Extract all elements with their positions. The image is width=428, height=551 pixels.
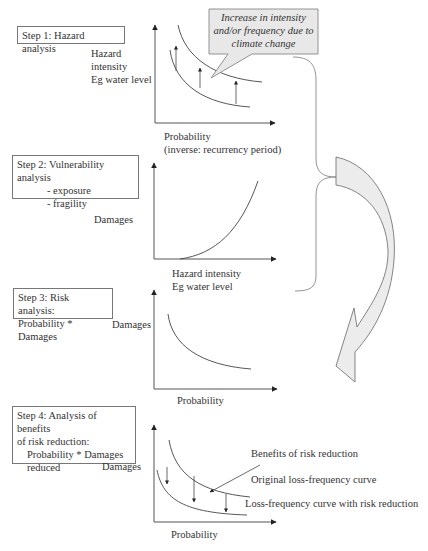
step-2-title: Step 2: Vulnerability analysis [17, 158, 134, 184]
callout-line: and/or frequency due to [209, 24, 318, 37]
curved-flow-arrow-icon [336, 157, 394, 382]
callout-line: Increase in intensity [209, 11, 318, 24]
benefits-x-axis-label: Probability [171, 528, 218, 541]
risk-y-axis-label: Damages [112, 318, 151, 331]
label-line: intensity [91, 60, 152, 73]
step-1-box: Step 1: Hazard analysis [17, 26, 125, 44]
step-4-title-cont: of risk reduction: [17, 435, 131, 448]
risk-x-axis-label: Probability [177, 394, 224, 407]
benefits-y-axis-label: Damages [102, 460, 141, 473]
step-2-item: - fragility [17, 197, 134, 210]
hazard-y-axis-label: Hazard intensity Eg water level [91, 47, 152, 86]
step-3-title: Step 3: Risk analysis: [18, 291, 108, 317]
step-3-box: Step 3: Risk analysis: Probability * Dam… [13, 288, 113, 319]
step-4-title: Step 4: Analysis of benefits [17, 409, 131, 435]
vulnerability-y-axis-label: Damages [94, 213, 133, 226]
label-line: Eg water level [172, 280, 241, 293]
step-3-formula: Probability * Damages [18, 317, 108, 343]
label-line: Hazard [91, 47, 152, 60]
benefits-of-risk-reduction-label: Benefits of risk reduction [251, 447, 358, 460]
loss-frequency-curve [168, 314, 251, 369]
label-line: Probability [164, 130, 281, 143]
vulnerability-x-axis-label: Hazard intensity Eg water level [172, 267, 241, 293]
step-2-item: - exposure [17, 184, 134, 197]
label-line: Hazard intensity [172, 267, 241, 280]
damage-curve [180, 181, 258, 259]
reduced-loss-frequency-curve [157, 470, 247, 515]
label-line: (inverse: recurrency period) [164, 143, 281, 156]
vulnerability-chart [154, 163, 276, 259]
original-loss-frequency-curve [169, 440, 250, 497]
reduced-curve-label: Loss-frequency curve with risk reduction [245, 497, 418, 510]
label-line: Eg water level [91, 73, 152, 86]
original-curve-label: Original loss-frequency curve [251, 473, 376, 486]
step-2-box: Step 2: Vulnerability analysis - exposur… [12, 155, 139, 199]
risk-chart [154, 290, 277, 389]
climate-change-callout: Increase in intensity and/or frequency d… [209, 11, 318, 50]
hazard-x-axis-label: Probability (inverse: recurrency period) [164, 130, 281, 156]
steps-brace [293, 57, 336, 291]
callout-line: climate change [209, 37, 318, 50]
step-4-box: Step 4: Analysis of benefits of risk red… [12, 406, 136, 464]
